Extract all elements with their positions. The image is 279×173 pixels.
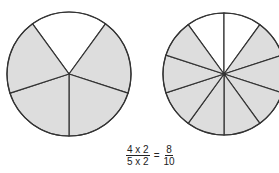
equals-sign: = <box>154 150 160 161</box>
left-numerator: 4 x 2 <box>126 144 150 156</box>
left-denominator: 5 x 2 <box>127 156 149 167</box>
right-fraction: 8 10 <box>164 144 175 167</box>
circle-fifths <box>7 12 131 136</box>
right-numerator: 8 <box>165 144 173 156</box>
circle-tenths <box>163 13 279 135</box>
right-denominator: 10 <box>164 156 175 167</box>
left-fraction: 4 x 2 5 x 2 <box>126 144 150 167</box>
equivalent-fraction-equation: 4 x 2 5 x 2 = 8 10 <box>126 144 175 167</box>
